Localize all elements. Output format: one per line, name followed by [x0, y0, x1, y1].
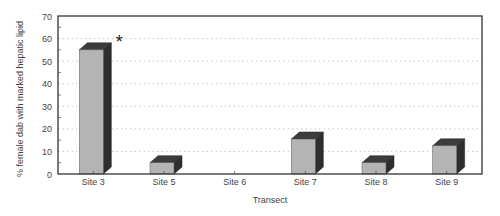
bar-chart: 010203040506070 Site 3Site 5Site 6Site 7… — [0, 0, 500, 216]
bar-site-9 — [433, 139, 465, 174]
y-tick-label: 10 — [42, 147, 52, 157]
y-tick-label: 40 — [42, 79, 52, 89]
y-tick-label: 30 — [42, 102, 52, 112]
significance-star: * — [116, 32, 123, 52]
x-tick-label: Site 9 — [435, 177, 458, 187]
y-tick-label: 0 — [47, 170, 52, 180]
y-tick-label: 70 — [42, 12, 52, 22]
annotations: * — [116, 32, 123, 52]
x-tick-label: Site 5 — [152, 177, 175, 187]
x-tick-label: Site 6 — [223, 177, 246, 187]
bar-site-7 — [291, 132, 323, 174]
bars — [79, 43, 464, 174]
x-tick-label: Site 8 — [364, 177, 387, 187]
y-tick-label: 20 — [42, 124, 52, 134]
x-tick-label: Site 7 — [294, 177, 317, 187]
bar-site-8 — [362, 156, 394, 174]
bar-site-5 — [150, 156, 182, 174]
y-tick-label: 60 — [42, 34, 52, 44]
bar-site-3 — [79, 43, 111, 174]
gridlines — [58, 39, 482, 152]
x-tick-label: Site 3 — [82, 177, 105, 187]
y-tick-label: 50 — [42, 57, 52, 67]
y-axis-title: % female dab with marked hepatic lipid — [15, 21, 25, 177]
x-axis-title: Transect — [253, 195, 288, 205]
